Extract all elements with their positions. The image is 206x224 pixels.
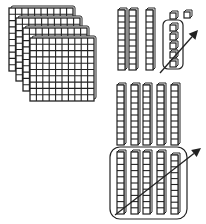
ten-rod: [157, 83, 166, 145]
ten-rod: [131, 150, 140, 214]
one-cube: [170, 41, 178, 49]
hundred-flats: [9, 6, 96, 101]
hundred-flat: [30, 36, 96, 101]
ten-rod: [143, 150, 152, 214]
one-cube: [170, 32, 178, 40]
one-cube: [170, 11, 178, 19]
ten-rod: [129, 8, 138, 70]
regroup-arrow-ones: [160, 30, 198, 73]
diagram-canvas: [0, 0, 206, 224]
ten-rods-bottom: [117, 83, 180, 214]
ten-rod: [131, 83, 140, 145]
ten-rod: [171, 153, 180, 214]
ten-rod: [117, 83, 126, 145]
ten-rods-top: [118, 8, 155, 70]
ten-rod: [143, 83, 152, 145]
one-cube: [184, 10, 192, 18]
ten-rod: [117, 150, 126, 214]
ten-rod: [171, 83, 180, 145]
one-cube: [170, 23, 178, 31]
ten-rod: [118, 8, 127, 70]
ten-rod: [146, 8, 155, 70]
